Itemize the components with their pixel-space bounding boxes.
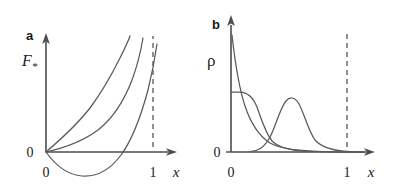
panel-a-curve-3 xyxy=(46,44,157,176)
panel-b-ylabel: ρ xyxy=(207,51,215,70)
panel-b-y-axis xyxy=(227,15,235,152)
panel-a-y-axis xyxy=(42,33,50,152)
panel-b-letter: b xyxy=(212,17,220,32)
panel-b-xlabel: x xyxy=(367,164,375,180)
panel-a-xlabel: x xyxy=(172,164,180,180)
panel-a: a F* 0 0 1 x xyxy=(0,0,198,187)
panel-a-curve-1 xyxy=(46,36,130,152)
panel-a-curve-2 xyxy=(46,38,143,152)
panel-b-x-origin-label: 0 xyxy=(228,165,235,180)
panel-a-x-origin-label: 0 xyxy=(43,165,50,180)
panel-a-x-axis xyxy=(46,148,177,156)
panel-b: b ρ 0 0 1 x xyxy=(198,0,397,187)
figure-container: a F* 0 0 1 x b ρ 0 0 xyxy=(0,0,397,187)
panel-b-y-origin-label: 0 xyxy=(214,145,221,160)
panel-a-y-origin-label: 0 xyxy=(27,145,34,160)
panel-a-letter: a xyxy=(26,28,34,43)
panel-b-curve-1 xyxy=(232,35,364,152)
panel-a-x-tick-label: 1 xyxy=(150,165,157,180)
panel-b-x-tick-label: 1 xyxy=(344,165,351,180)
panel-a-ylabel: F* xyxy=(21,52,38,72)
